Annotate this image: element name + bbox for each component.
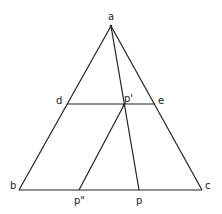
diagram-canvas: a b c d e p' p p"	[0, 0, 222, 214]
segment-p1-p2	[79, 105, 124, 190]
point-a	[110, 25, 113, 28]
label-d: d	[56, 95, 62, 106]
label-c: c	[205, 180, 211, 191]
label-e: e	[158, 95, 164, 106]
label-a: a	[108, 11, 114, 22]
label-p-double-prime: p"	[74, 195, 85, 206]
triangle-diagram: a b c d e p' p p"	[0, 0, 222, 214]
segment-ab	[19, 26, 111, 190]
label-p-prime: p'	[124, 93, 133, 104]
label-b: b	[10, 180, 16, 191]
label-p: p	[136, 195, 142, 206]
point-p1	[123, 104, 126, 107]
